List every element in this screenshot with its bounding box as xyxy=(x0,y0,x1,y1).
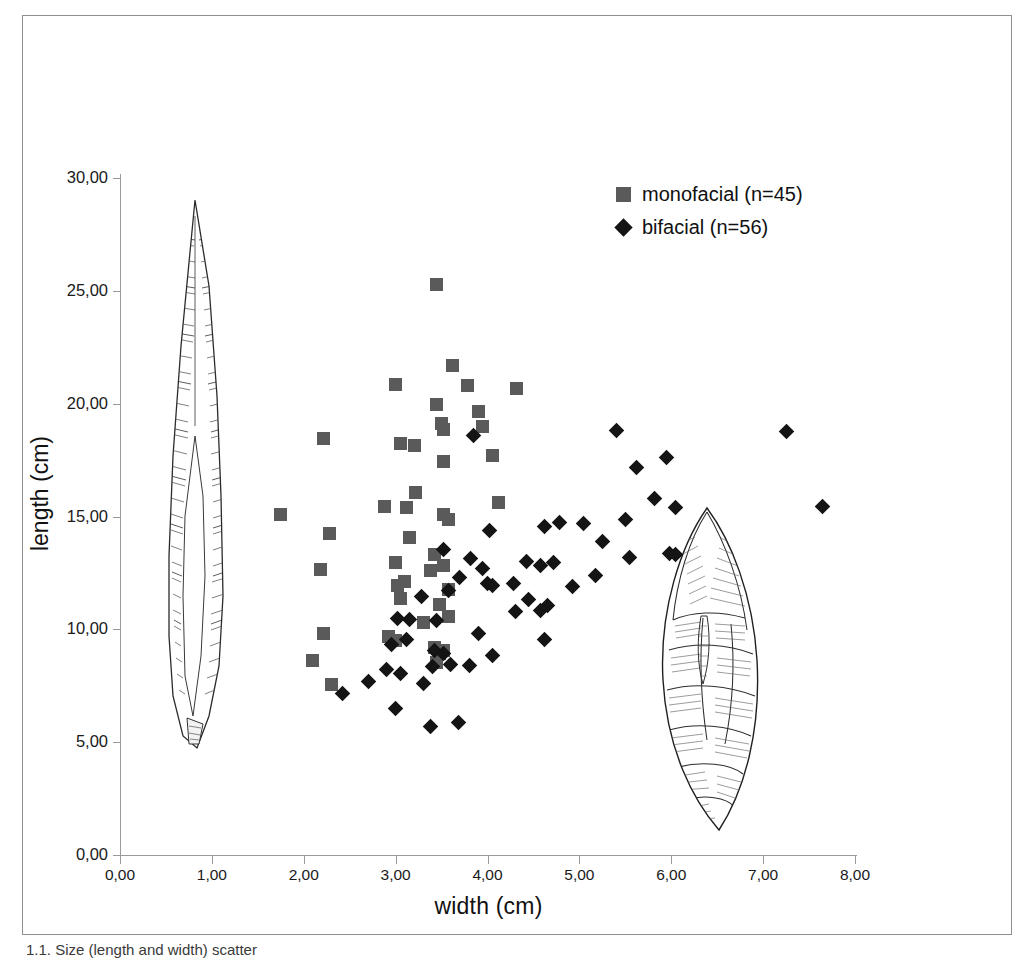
data-point-monofacial xyxy=(437,455,450,468)
data-point-bifacial xyxy=(546,555,562,571)
data-point-monofacial xyxy=(409,486,422,499)
data-point-bifacial xyxy=(521,592,537,608)
data-point-monofacial xyxy=(437,559,450,572)
data-point-monofacial xyxy=(323,527,336,540)
y-tick-label: 0,00 xyxy=(46,846,108,863)
x-tick-mark xyxy=(212,856,213,864)
data-point-monofacial xyxy=(446,359,459,372)
x-axis-line xyxy=(120,855,857,856)
data-point-monofacial xyxy=(314,563,327,576)
x-tick-label: 4,00 xyxy=(458,866,518,884)
figure-page: 0,005,0010,0015,0020,0025,0030,00 0,001,… xyxy=(0,0,1035,962)
y-axis-title: length (cm) xyxy=(27,394,54,594)
x-tick-label: 5,00 xyxy=(549,866,609,884)
data-point-bifacial xyxy=(414,589,430,605)
data-point-bifacial xyxy=(471,626,487,642)
data-point-monofacial xyxy=(403,531,416,544)
data-point-monofacial xyxy=(442,513,455,526)
data-point-monofacial xyxy=(430,278,443,291)
data-point-bifacial xyxy=(608,423,624,439)
data-point-bifacial xyxy=(392,666,408,682)
y-tick-mark xyxy=(113,178,121,179)
data-point-bifacial xyxy=(659,450,675,466)
x-tick-mark xyxy=(671,856,672,864)
data-point-bifacial xyxy=(815,499,831,515)
chart-legend: monofacial (n=45) bifacial (n=56) xyxy=(616,178,803,244)
data-point-bifacial xyxy=(564,579,580,595)
data-point-monofacial xyxy=(325,678,338,691)
data-point-monofacial xyxy=(317,627,330,640)
x-tick-mark xyxy=(579,856,580,864)
legend-label-monofacial: monofacial (n=45) xyxy=(642,183,803,206)
data-point-bifacial xyxy=(588,567,604,583)
y-tick-mark xyxy=(113,404,121,405)
data-point-monofacial xyxy=(378,500,391,513)
figure-caption: 1.1. Size (length and width) scatter xyxy=(26,941,626,962)
data-point-bifacial xyxy=(778,424,794,440)
data-point-bifacial xyxy=(518,554,534,570)
y-tick-label: 20,00 xyxy=(46,395,108,412)
data-point-bifacial xyxy=(595,534,611,550)
x-tick-label: 8,00 xyxy=(825,866,885,884)
data-point-monofacial xyxy=(408,439,421,452)
data-point-monofacial xyxy=(317,432,330,445)
data-point-bifacial xyxy=(415,676,431,692)
x-tick-mark xyxy=(120,856,121,864)
y-tick-label: 25,00 xyxy=(46,282,108,299)
x-tick-label: 3,00 xyxy=(366,866,426,884)
y-tick-label: 15,00 xyxy=(46,508,108,525)
x-tick-label: 1,00 xyxy=(182,866,242,884)
x-tick-label: 6,00 xyxy=(641,866,701,884)
data-point-monofacial xyxy=(400,501,413,514)
data-point-monofacial xyxy=(394,592,407,605)
data-point-bifacial xyxy=(537,519,553,535)
data-point-bifacial xyxy=(388,701,404,717)
data-point-monofacial xyxy=(306,654,319,667)
legend-square-marker-icon xyxy=(616,187,631,202)
y-tick-mark xyxy=(113,629,121,630)
y-tick-label: 30,00 xyxy=(46,169,108,186)
data-point-bifacial xyxy=(475,561,491,577)
data-point-bifacial xyxy=(360,673,376,689)
y-axis-line xyxy=(120,174,121,856)
data-point-monofacial xyxy=(274,508,287,521)
data-point-monofacial xyxy=(492,496,505,509)
data-point-monofacial xyxy=(510,382,523,395)
x-tick-mark xyxy=(763,856,764,864)
data-point-monofacial xyxy=(389,556,402,569)
x-tick-mark xyxy=(304,856,305,864)
legend-label-bifacial: bifacial (n=56) xyxy=(642,216,768,239)
x-tick-label: 0,00 xyxy=(90,866,150,884)
data-point-monofacial xyxy=(430,398,443,411)
data-point-bifacial xyxy=(576,515,592,531)
data-point-monofacial xyxy=(486,449,499,462)
x-tick-mark xyxy=(396,856,397,864)
data-point-monofacial xyxy=(398,575,411,588)
x-tick-mark xyxy=(488,856,489,864)
legend-item-bifacial[interactable]: bifacial (n=56) xyxy=(616,211,803,244)
x-axis-title: width (cm) xyxy=(120,893,857,920)
data-point-bifacial xyxy=(450,715,466,731)
data-point-monofacial xyxy=(389,378,402,391)
data-point-bifacial xyxy=(622,549,638,565)
legend-item-monofacial[interactable]: monofacial (n=45) xyxy=(616,178,803,211)
data-point-bifacial xyxy=(461,658,477,674)
data-point-bifacial xyxy=(482,522,498,538)
x-tick-label: 2,00 xyxy=(274,866,334,884)
data-point-bifacial xyxy=(484,648,500,664)
data-point-bifacial xyxy=(533,557,549,573)
data-point-monofacial xyxy=(394,437,407,450)
data-point-bifacial xyxy=(390,610,406,626)
monofacial-point-drawing xyxy=(143,196,248,768)
data-point-bifacial xyxy=(505,575,521,591)
data-point-monofacial xyxy=(417,616,430,629)
y-tick-mark xyxy=(113,291,121,292)
data-point-monofacial xyxy=(424,564,437,577)
data-point-monofacial xyxy=(433,598,446,611)
data-point-bifacial xyxy=(423,719,439,735)
data-point-monofacial xyxy=(437,423,450,436)
data-point-monofacial xyxy=(442,610,455,623)
y-tick-label: 10,00 xyxy=(46,620,108,637)
y-tick-mark xyxy=(113,517,121,518)
y-tick-mark xyxy=(113,742,121,743)
